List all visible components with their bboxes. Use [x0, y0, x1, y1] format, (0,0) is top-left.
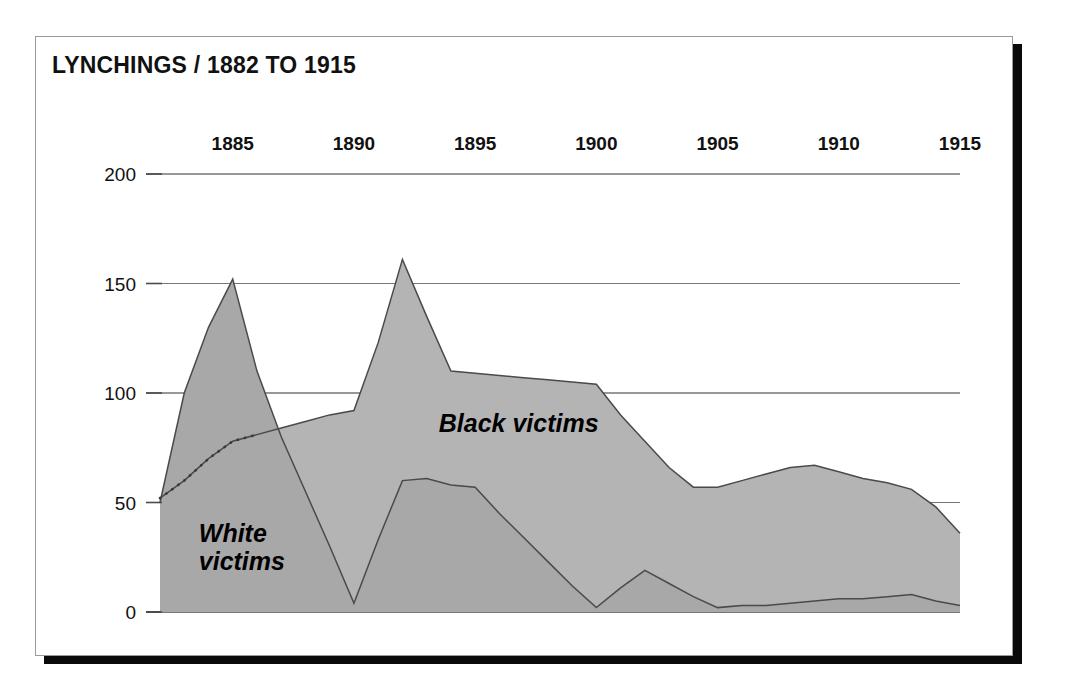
chart-plot: 1885189018951900190519101915 05010015020… — [0, 0, 1069, 698]
x-axis-label-1905: 1905 — [696, 133, 739, 154]
y-axis-label-50: 50 — [115, 493, 136, 514]
x-axis-label-1900: 1900 — [575, 133, 617, 154]
y-axis-label-0: 0 — [125, 602, 136, 623]
x-axis-labels-group: 1885189018951900190519101915 — [212, 133, 982, 154]
y-axis-label-200: 200 — [104, 164, 136, 185]
y-axis-label-150: 150 — [104, 274, 136, 295]
figure-root: LYNCHINGS / 1882 TO 1915 188518901895190… — [0, 0, 1069, 698]
x-axis-label-1895: 1895 — [454, 133, 497, 154]
x-axis-label-1910: 1910 — [818, 133, 860, 154]
annotation-line-2: victims — [199, 547, 285, 575]
series-annotation-black-victims: Black victims — [439, 409, 599, 437]
y-axis-label-100: 100 — [104, 383, 136, 404]
y-axis-labels-group: 050100150200 — [104, 164, 136, 623]
annotation-line-1: White — [199, 519, 267, 547]
x-axis-label-1915: 1915 — [939, 133, 982, 154]
x-axis-label-1885: 1885 — [212, 133, 255, 154]
x-axis-label-1890: 1890 — [333, 133, 375, 154]
y-axis-ticks-group — [146, 174, 162, 612]
